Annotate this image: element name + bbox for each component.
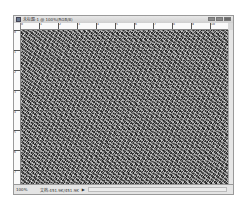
ruler-label: 4: [14, 111, 16, 114]
vertical-scrollbar[interactable]: [228, 30, 233, 185]
ruler-label: 2: [58, 23, 61, 26]
ruler-label: 5: [115, 23, 118, 26]
title-bar[interactable]: 未标题-1 @ 100%(RGB/8): [14, 16, 233, 23]
ruler-label: 6: [14, 151, 16, 154]
horizontal-ruler[interactable]: 0 1 2 3 4 5 6 7 8 9 10: [20, 23, 228, 30]
window-title: 未标题-1 @ 100%(RGB/8): [23, 17, 73, 22]
document-icon: [16, 17, 21, 22]
window-controls: [208, 17, 231, 21]
ruler-label: 5: [14, 131, 16, 134]
minimize-button[interactable]: [208, 17, 215, 21]
ruler-label: 3: [14, 91, 16, 94]
maximize-button[interactable]: [216, 17, 223, 21]
ruler-label: 1: [39, 23, 42, 26]
ruler-label: 8: [172, 23, 175, 26]
document-size-info: 文档:451.9K/451.9K: [40, 187, 79, 193]
document-window: 未标题-1 @ 100%(RGB/8) 0 1 2 3 4 5 6 7 8 9 …: [13, 15, 234, 195]
ruler-label: 7: [153, 23, 156, 26]
ruler-label: 1: [14, 51, 16, 54]
vertical-ruler[interactable]: 0 1 2 3 4 5 6 7: [14, 23, 21, 185]
ruler-label: 6: [134, 23, 137, 26]
ruler-label: 10: [210, 23, 215, 26]
zoom-level-field[interactable]: 100%: [16, 187, 30, 192]
status-bar: 100% 文档:451.9K/451.9K ▶: [14, 184, 233, 194]
horizontal-scrollbar[interactable]: [88, 187, 227, 192]
status-menu-arrow-icon[interactable]: ▶: [82, 187, 85, 192]
ruler-label: 9: [191, 23, 194, 26]
close-button[interactable]: [224, 17, 231, 21]
ruler-label: 2: [14, 71, 16, 74]
ruler-label: 3: [77, 23, 80, 26]
ruler-label: 4: [96, 23, 99, 26]
image-canvas[interactable]: [21, 30, 228, 185]
ruler-label: 0: [14, 31, 16, 34]
ruler-label: 7: [14, 171, 16, 174]
